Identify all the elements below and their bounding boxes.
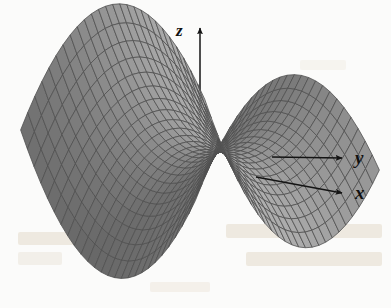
saddle-surface-plot bbox=[0, 0, 391, 308]
figure-container: z y x bbox=[0, 0, 391, 308]
y-axis-line bbox=[272, 157, 342, 158]
x-axis-label: x bbox=[355, 183, 365, 202]
y-axis-label: y bbox=[355, 148, 363, 167]
z-axis-label: z bbox=[176, 22, 183, 39]
